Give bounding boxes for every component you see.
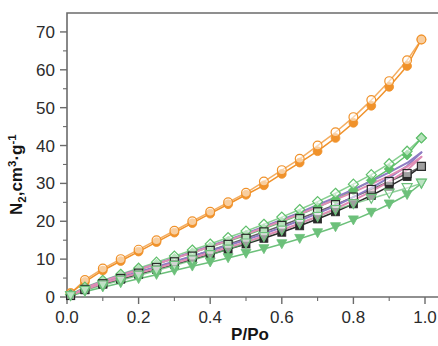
data-point-sample-orange-desorption-2 — [385, 77, 394, 86]
chart-canvas: 0102030405060700.00.20.40.60.81.0 N2,cm3… — [0, 0, 438, 346]
y-tick-label-50: 50 — [36, 99, 55, 118]
data-point-sample-orange-desorption-1 — [403, 56, 412, 65]
data-point-sample-orange-desorption-0 — [417, 35, 426, 44]
y-axis-title-base1: N — [7, 203, 26, 215]
y-tick-label-40: 40 — [36, 137, 55, 156]
svg-text:N2,cm3·g-1: N2,cm3·g-1 — [6, 134, 28, 215]
y-tick-label-20: 20 — [36, 212, 55, 231]
data-point-sample-black-square-desorption-0 — [417, 162, 425, 170]
x-tick-label-0.6: 0.6 — [270, 308, 294, 327]
data-point-sample-orange-desorption-17 — [116, 255, 125, 264]
data-point-sample-orange-desorption-5 — [331, 128, 340, 137]
data-point-sample-orange-desorption-18 — [98, 264, 107, 273]
y-axis-title-base2: ,cm — [7, 167, 26, 196]
data-point-sample-orange-desorption-14 — [170, 226, 179, 235]
data-point-sample-orange-desorption-6 — [313, 141, 322, 150]
y-tick-label-70: 70 — [36, 23, 55, 42]
data-point-sample-orange-desorption-12 — [206, 207, 215, 216]
data-point-sample-orange-desorption-3 — [367, 96, 376, 105]
data-point-sample-orange-desorption-13 — [188, 217, 197, 226]
isotherm-figure: 0102030405060700.00.20.40.60.81.0 N2,cm3… — [0, 0, 438, 346]
y-axis-title: N2,cm3·g-1 — [6, 134, 28, 215]
y-axis-title-base3: ·g — [7, 145, 26, 161]
x-tick-label-0.2: 0.2 — [127, 308, 151, 327]
data-point-sample-black-square-desorption-1 — [403, 170, 411, 178]
x-tick-label-0.8: 0.8 — [342, 308, 366, 327]
y-tick-label-10: 10 — [36, 250, 55, 269]
data-point-sample-orange-desorption-8 — [277, 166, 286, 175]
data-point-sample-orange-desorption-4 — [349, 113, 358, 122]
data-point-sample-orange-desorption-16 — [134, 245, 143, 254]
x-tick-label-0.0: 0.0 — [55, 308, 79, 327]
y-axis-title-sup2: -1 — [6, 134, 18, 145]
x-axis-title: P/Po — [231, 325, 269, 344]
x-tick-label-1.0: 1.0 — [413, 308, 437, 327]
data-point-sample-orange-desorption-10 — [242, 188, 251, 197]
data-point-sample-orange-desorption-7 — [295, 154, 304, 163]
data-point-sample-orange-desorption-11 — [224, 198, 233, 207]
y-tick-label-60: 60 — [36, 61, 55, 80]
y-tick-label-30: 30 — [36, 174, 55, 193]
x-tick-label-0.4: 0.4 — [198, 308, 222, 327]
data-point-sample-black-square-desorption-3 — [367, 185, 375, 193]
y-tick-label-0: 0 — [46, 288, 55, 307]
data-point-sample-black-square-desorption-2 — [385, 178, 393, 186]
data-point-sample-orange-desorption-15 — [152, 236, 161, 245]
data-point-sample-orange-desorption-9 — [260, 177, 269, 186]
